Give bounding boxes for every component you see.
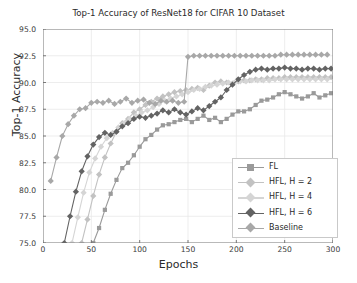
data-point bbox=[111, 101, 117, 107]
data-point bbox=[254, 53, 260, 59]
data-point bbox=[102, 154, 108, 160]
y-tick-label: 82.5 bbox=[19, 158, 36, 167]
data-point bbox=[196, 117, 200, 121]
data-point bbox=[202, 53, 208, 59]
chart-legend: FLHFL, H = 2HFL, H = 4HFL, H = 6Baseline bbox=[232, 158, 338, 238]
data-point bbox=[214, 53, 220, 59]
legend-item-fl[interactable]: FL bbox=[233, 160, 337, 174]
data-point bbox=[248, 107, 252, 111]
data-point bbox=[84, 216, 90, 222]
data-point bbox=[225, 117, 229, 121]
data-point bbox=[254, 103, 258, 107]
legend-item-baseline[interactable]: Baseline bbox=[233, 221, 337, 235]
x-tick-label: 150 bbox=[181, 245, 196, 254]
data-point bbox=[324, 52, 330, 58]
data-point bbox=[185, 54, 191, 60]
data-point bbox=[294, 94, 298, 98]
data-point bbox=[271, 95, 275, 99]
x-tick-label: 300 bbox=[326, 245, 341, 254]
data-point bbox=[299, 67, 305, 73]
data-point bbox=[237, 53, 243, 59]
y-tick-label: 90.0 bbox=[19, 78, 36, 87]
data-point bbox=[282, 64, 288, 70]
data-point bbox=[181, 99, 187, 105]
data-point bbox=[259, 99, 263, 103]
data-point bbox=[190, 120, 194, 124]
data-point bbox=[328, 65, 333, 71]
data-point bbox=[195, 105, 201, 111]
data-point bbox=[318, 52, 324, 58]
data-point bbox=[114, 178, 118, 182]
data-point bbox=[260, 53, 266, 59]
legend-marker-icon bbox=[246, 208, 256, 218]
data-point bbox=[144, 107, 150, 113]
data-point bbox=[305, 65, 311, 71]
x-tick-label: 200 bbox=[229, 245, 244, 254]
data-point bbox=[220, 53, 226, 59]
legend-item-hfl-h-2[interactable]: HFL, H = 2 bbox=[233, 175, 337, 189]
data-point bbox=[97, 226, 101, 230]
legend-item-label: HFL, H = 6 bbox=[269, 206, 312, 220]
data-point bbox=[243, 53, 249, 59]
data-point bbox=[80, 190, 86, 196]
data-point bbox=[258, 65, 264, 71]
data-point bbox=[140, 97, 146, 103]
data-point bbox=[84, 153, 90, 159]
data-point bbox=[138, 145, 142, 149]
data-point bbox=[142, 115, 148, 121]
data-point bbox=[98, 144, 104, 150]
data-point bbox=[177, 109, 183, 115]
data-point bbox=[154, 110, 160, 116]
data-point bbox=[103, 208, 107, 212]
data-point bbox=[247, 69, 253, 75]
data-point bbox=[108, 140, 114, 146]
data-point bbox=[208, 53, 214, 59]
data-point bbox=[96, 171, 102, 177]
y-tick-label: 92.5 bbox=[19, 51, 36, 60]
data-point bbox=[283, 90, 287, 94]
data-point bbox=[230, 113, 234, 117]
legend-item-label: HFL, H = 4 bbox=[269, 190, 312, 204]
y-axis-ticks: 75.077.580.082.585.087.590.092.595.0 bbox=[0, 29, 40, 243]
data-point bbox=[106, 98, 112, 104]
data-point bbox=[276, 65, 282, 71]
legend-marker-icon bbox=[246, 177, 256, 187]
data-point bbox=[132, 153, 136, 157]
chart-title: Top-1 Accuracy of ResNet18 for CIFAR 10 … bbox=[0, 8, 357, 18]
data-point bbox=[317, 95, 321, 99]
data-point bbox=[201, 114, 205, 118]
data-point bbox=[59, 133, 65, 139]
x-tick-label: 100 bbox=[132, 245, 147, 254]
legend-item-hfl-h-4[interactable]: HFL, H = 4 bbox=[233, 190, 337, 204]
y-tick-label: 75.0 bbox=[19, 239, 36, 248]
data-point bbox=[79, 240, 85, 243]
data-point bbox=[67, 213, 73, 219]
data-point bbox=[277, 92, 281, 96]
y-tick-label: 77.5 bbox=[19, 212, 36, 221]
data-point bbox=[242, 109, 246, 113]
data-point bbox=[207, 118, 211, 122]
data-point bbox=[225, 53, 231, 59]
data-point bbox=[288, 92, 292, 96]
data-point bbox=[272, 53, 278, 59]
x-axis-label: Epochs bbox=[0, 258, 357, 271]
legend-item-label: FL bbox=[269, 160, 278, 174]
data-point bbox=[167, 122, 171, 126]
data-point bbox=[69, 240, 75, 243]
data-point bbox=[306, 94, 310, 98]
data-point bbox=[322, 65, 328, 71]
legend-item-hfl-h-6[interactable]: HFL, H = 6 bbox=[233, 206, 337, 220]
data-point bbox=[295, 52, 301, 58]
y-tick-label: 85.0 bbox=[19, 132, 36, 141]
data-point bbox=[172, 120, 176, 124]
data-point bbox=[109, 192, 113, 196]
x-tick-label: 50 bbox=[86, 245, 96, 254]
data-point bbox=[166, 109, 172, 115]
legend-marker-icon bbox=[247, 164, 254, 171]
chart-figure: Top-1 Accuracy of ResNet18 for CIFAR 10 … bbox=[0, 0, 357, 283]
data-point bbox=[196, 53, 202, 59]
data-point bbox=[161, 123, 165, 127]
data-point bbox=[92, 155, 98, 161]
legend-item-label: HFL, H = 2 bbox=[269, 175, 312, 189]
data-point bbox=[79, 168, 85, 174]
